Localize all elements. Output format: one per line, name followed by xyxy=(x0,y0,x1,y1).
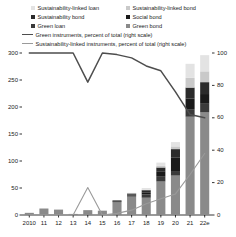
legend-swatch-sustainability-linked-loan xyxy=(31,6,35,10)
legend-label-green-bond: Green bond xyxy=(133,23,163,29)
y2-tick-label: 20 xyxy=(217,179,224,185)
chart-legend: Sustainability-linked loan Sustainabilit… xyxy=(0,2,236,52)
legend-item-green-bond: Green bond xyxy=(126,23,162,30)
legend-label-sustainability-linked-instruments: Sustainability-linked instruments, perce… xyxy=(36,41,187,47)
y-tick-label: 300 xyxy=(8,50,18,56)
legend-line-green-instruments xyxy=(22,34,33,35)
legend-label-sustainability-linked-loan: Sustainability-linked loan xyxy=(38,5,100,11)
y-tick-label: 0 xyxy=(15,212,18,218)
legend-label-green-instruments: Green instruments, percent of total (rig… xyxy=(36,32,153,38)
y-tick-label: 100 xyxy=(8,158,18,164)
legend-label-social-bond: Social bond xyxy=(133,14,162,20)
legend-item-green-instruments-line: Green instruments, percent of total (rig… xyxy=(22,32,152,39)
legend-swatch-sustainability-bond xyxy=(31,15,35,19)
y2-tick-label: 0 xyxy=(217,212,220,218)
legend-line-sustainability-linked-instruments xyxy=(22,43,33,44)
legend-label-green-loan: Green loan xyxy=(38,23,66,29)
legend-swatch-green-bond xyxy=(126,24,130,28)
legend-swatch-social-bond xyxy=(126,15,130,19)
legend-item-green-loan: Green loan xyxy=(31,23,65,30)
legend-item-sustainability-linked-instruments-line: Sustainability-linked instruments, perce… xyxy=(22,41,186,48)
legend-label-sustainability-bond: Sustainability bond xyxy=(38,14,85,20)
legend-swatch-green-loan xyxy=(31,24,35,28)
x-tick-label: 22e xyxy=(194,220,216,226)
y-tick-label: 200 xyxy=(8,104,18,110)
legend-label-sustainability-linked-bond: Sustainability-linked bond xyxy=(133,5,196,11)
y2-tick-label: 40 xyxy=(217,147,224,153)
legend-item-sustainability-bond: Sustainability bond xyxy=(31,14,84,21)
y2-tick-label: 100 xyxy=(217,50,227,56)
legend-item-sustainability-linked-loan: Sustainability-linked loan xyxy=(31,5,99,12)
y2-tick-label: 80 xyxy=(217,82,224,88)
y-tick-label: 250 xyxy=(8,77,18,83)
y-tick-label: 150 xyxy=(8,131,18,137)
legend-item-social-bond: Social bond xyxy=(126,14,162,21)
y2-tick-label: 60 xyxy=(217,114,224,120)
y-tick-label: 50 xyxy=(11,185,18,191)
legend-swatch-sustainability-linked-bond xyxy=(126,6,130,10)
legend-item-sustainability-linked-bond: Sustainability-linked bond xyxy=(126,5,196,12)
chart-container: Sustainability-linked loan Sustainabilit… xyxy=(0,0,236,237)
